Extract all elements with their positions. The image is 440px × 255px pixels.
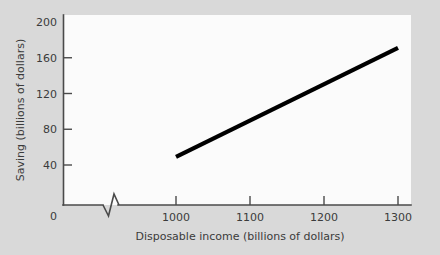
y-axis-title: Saving (billions of dollars) [14,39,27,181]
y-tick-label-120: 120 [36,88,57,101]
origin-label-zero: 0 [50,210,57,223]
y-tick-label-40: 40 [43,159,57,172]
x-tick-label-1100: 1100 [236,211,264,224]
chart-figure: 200 160 120 80 40 0 1000 1100 1200 1300 … [0,0,440,255]
y-tick-label-80: 80 [43,123,57,136]
plot-area-background [63,15,411,205]
x-tick-label-1200: 1200 [310,211,338,224]
x-tick-label-1000: 1000 [162,211,190,224]
x-axis-title: Disposable income (billions of dollars) [135,230,344,243]
y-tick-label-200: 200 [36,16,57,29]
saving-vs-income-line-chart: 200 160 120 80 40 0 1000 1100 1200 1300 … [0,0,440,255]
x-tick-label-1300: 1300 [384,211,412,224]
y-tick-label-160: 160 [36,52,57,65]
